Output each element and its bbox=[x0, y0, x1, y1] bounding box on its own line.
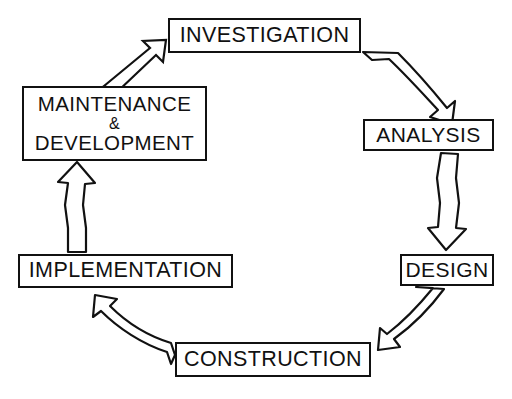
node-implementation[interactable]: IMPLEMENTATION bbox=[18, 254, 233, 288]
node-investigation[interactable]: INVESTIGATION bbox=[168, 18, 361, 53]
node-design[interactable]: DESIGN bbox=[400, 254, 494, 286]
node-design-label: DESIGN bbox=[406, 259, 489, 280]
arrow-implementation-maintenance bbox=[58, 162, 95, 252]
arrow-construction-implementation bbox=[93, 295, 175, 364]
node-construction[interactable]: CONSTRUCTION bbox=[175, 342, 371, 377]
node-construction-label: CONSTRUCTION bbox=[184, 349, 362, 371]
node-implementation-label: IMPLEMENTATION bbox=[29, 260, 223, 282]
arrow-maintenance-investigation bbox=[104, 40, 166, 92]
node-analysis-label: ANALYSIS bbox=[376, 124, 480, 145]
arrow-design-construction bbox=[378, 287, 444, 350]
arrow-analysis-design bbox=[428, 153, 466, 250]
node-analysis[interactable]: ANALYSIS bbox=[363, 119, 494, 151]
node-maintenance[interactable]: MAINTENANCE & DEVELOPMENT bbox=[22, 86, 207, 161]
diagram-canvas: INVESTIGATION ANALYSIS DESIGN CONSTRUCTI… bbox=[0, 0, 512, 399]
cycle-arrows-layer bbox=[0, 0, 512, 399]
node-investigation-label: INVESTIGATION bbox=[180, 25, 350, 47]
node-maintenance-label-line1: MAINTENANCE bbox=[38, 93, 192, 116]
arrow-investigation-analysis bbox=[363, 52, 455, 124]
node-maintenance-label-line3: DEVELOPMENT bbox=[35, 132, 194, 155]
node-maintenance-ampersand: & bbox=[109, 116, 120, 132]
